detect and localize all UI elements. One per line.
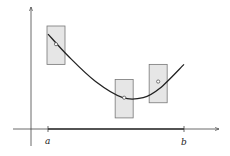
label-a: a bbox=[45, 136, 50, 146]
sample-point bbox=[123, 96, 126, 99]
diagram: a b bbox=[0, 0, 230, 156]
sample-point bbox=[54, 43, 57, 46]
sample-point bbox=[157, 80, 160, 83]
label-b: b bbox=[181, 137, 187, 147]
